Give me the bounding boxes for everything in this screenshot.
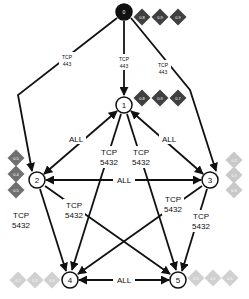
- node-3[interactable]: 3: [202, 172, 218, 188]
- svg-text:0.4: 0.4: [13, 172, 19, 177]
- svg-text:TCP: TCP: [101, 148, 117, 157]
- score-diamond: 0.8: [134, 90, 151, 107]
- node-label: 0: [123, 9, 126, 15]
- edge-label-2-4: TCP 5432: [10, 209, 32, 231]
- edge-2-4: [40, 189, 66, 271]
- svg-text:5432: 5432: [192, 222, 210, 231]
- score-diamond: 0.5: [8, 150, 25, 167]
- score-diamond: 0.1: [222, 270, 239, 287]
- svg-text:TCP: TCP: [13, 211, 29, 220]
- edge-label-3-5: TCP 5432: [190, 210, 212, 232]
- score-diamond: 0.9: [170, 9, 187, 26]
- node-3-scores: 0.3 0.3 0.3: [226, 152, 243, 199]
- edge-label-1-4: TCP 5432: [98, 146, 120, 168]
- score-diamond: 0.4: [8, 166, 25, 183]
- svg-text:0.1: 0.1: [49, 278, 55, 283]
- edge-label-protocol: TCP: [119, 56, 130, 62]
- edge-2-3: ALL: [46, 174, 201, 185]
- score-diamond: 0.1: [205, 270, 222, 287]
- svg-text:0.5: 0.5: [13, 156, 19, 161]
- svg-text:TCP: TCP: [165, 195, 181, 204]
- diagram-svg: TCP 443 TCP 443 TCP 443 ALL ALL: [0, 0, 249, 299]
- score-diamond: 0.2: [10, 272, 27, 289]
- edge-label-2-5: TCP 5432: [63, 199, 85, 221]
- edge-4-5: ALL: [79, 274, 169, 285]
- svg-text:0.1: 0.1: [32, 278, 38, 283]
- score-diamond: 0.9: [152, 90, 169, 107]
- score-diamond: 0.3: [226, 152, 243, 169]
- svg-text:0.5: 0.5: [13, 188, 19, 193]
- node-4[interactable]: 4: [62, 272, 78, 288]
- edge-label-port: 443: [120, 63, 129, 69]
- svg-text:0.3: 0.3: [231, 158, 237, 163]
- edge-label-all: ALL: [69, 135, 84, 144]
- svg-text:TCP: TCP: [193, 212, 209, 221]
- node-1[interactable]: 1: [116, 97, 132, 113]
- svg-text:5432: 5432: [65, 211, 83, 220]
- score-diamond: 0.1: [44, 272, 61, 289]
- edge-label-port: 443: [159, 69, 168, 75]
- svg-text:0.2: 0.2: [15, 278, 21, 283]
- svg-text:0.3: 0.3: [231, 188, 237, 193]
- node-label: 3: [208, 176, 213, 185]
- node-2-scores: 0.5 0.4 0.5: [8, 150, 25, 199]
- svg-text:5432: 5432: [100, 158, 118, 167]
- score-diamond: 0.3: [226, 182, 243, 199]
- edge-label-port: 443: [63, 61, 72, 67]
- score-diamond: 0.5: [8, 182, 25, 199]
- edge-label-1-5: TCP 5432: [130, 146, 152, 168]
- svg-text:0.1: 0.1: [227, 276, 233, 281]
- edge-label-protocol: TCP: [62, 54, 73, 60]
- edge-label-protocol: TCP: [158, 62, 169, 68]
- svg-text:0.8: 0.8: [139, 15, 145, 20]
- svg-text:0.3: 0.3: [231, 173, 237, 178]
- svg-text:0.9: 0.9: [157, 96, 163, 101]
- svg-text:0.9: 0.9: [157, 15, 163, 20]
- edge-label-all: ALL: [117, 276, 132, 285]
- node-label: 4: [68, 276, 73, 285]
- node-label: 1: [122, 101, 127, 110]
- svg-text:5432: 5432: [132, 158, 150, 167]
- svg-text:0.9: 0.9: [175, 15, 181, 20]
- svg-text:0.1: 0.1: [210, 276, 216, 281]
- node-5-scores: 0.2 0.1 0.1: [188, 270, 239, 287]
- svg-text:5432: 5432: [12, 221, 30, 230]
- score-diamond: 0.9: [152, 9, 169, 26]
- node-1-scores: 0.8 0.9 0.7: [134, 90, 187, 107]
- svg-text:5432: 5432: [164, 205, 182, 214]
- score-diamond: 0.1: [27, 272, 44, 289]
- edge-label-all: ALL: [117, 176, 132, 185]
- node-0[interactable]: 0: [116, 4, 132, 20]
- node-0-scores: 0.8 0.9 0.9: [134, 9, 187, 26]
- edge-label-3-4: TCP 5432: [162, 193, 184, 215]
- edge-label-all: ALL: [162, 135, 177, 144]
- node-2[interactable]: 2: [29, 172, 45, 188]
- score-diamond: 0.2: [188, 270, 205, 287]
- node-5[interactable]: 5: [170, 272, 186, 288]
- svg-text:TCP: TCP: [66, 201, 82, 210]
- network-diagram: TCP 443 TCP 443 TCP 443 ALL ALL: [0, 0, 249, 299]
- node-4-scores: 0.2 0.1 0.1: [10, 272, 61, 289]
- score-diamond: 0.3: [226, 167, 243, 184]
- svg-text:TCP: TCP: [133, 148, 149, 157]
- edge-0-1: TCP 443: [116, 21, 132, 95]
- svg-text:0.7: 0.7: [175, 96, 181, 101]
- node-label: 2: [35, 176, 40, 185]
- svg-text:0.8: 0.8: [139, 96, 145, 101]
- score-diamond: 0.7: [170, 90, 187, 107]
- node-label: 5: [176, 276, 181, 285]
- svg-text:0.2: 0.2: [193, 276, 199, 281]
